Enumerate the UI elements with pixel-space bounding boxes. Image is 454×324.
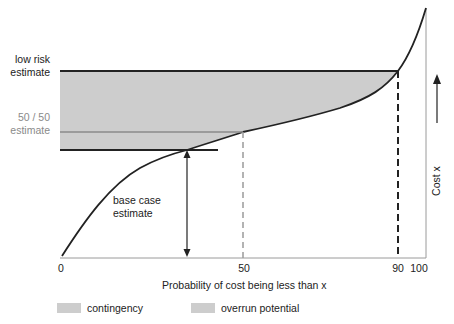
low-risk-label-line1: low risk	[0, 53, 50, 66]
low-risk-label: low risk estimate	[0, 53, 50, 79]
x-tick-90: 90	[392, 262, 404, 274]
fifty-label-line1: 50 / 50	[0, 111, 50, 124]
chart-canvas	[0, 0, 454, 324]
fifty-fifty-label: 50 / 50 estimate	[0, 111, 50, 137]
x-tick-100: 100	[410, 262, 428, 274]
shaded-contingency-area	[60, 71, 398, 150]
legend-label-contingency: contingency	[87, 302, 143, 315]
y-axis-label: Cost x	[430, 166, 442, 196]
fifty-label-line2: estimate	[0, 124, 50, 137]
base-label-line2: estimate	[113, 207, 161, 220]
legend-swatch-contingency	[57, 303, 81, 313]
low-risk-label-line2: estimate	[0, 66, 50, 79]
legend-label-overrun: overrun potential	[221, 302, 299, 315]
base-case-label: base case estimate	[113, 194, 161, 220]
arrow-head-down	[184, 249, 191, 257]
x-tick-0: 0	[58, 262, 64, 274]
base-label-line1: base case	[113, 194, 161, 207]
cost-arrow-head	[433, 74, 441, 84]
x-tick-50: 50	[238, 262, 250, 274]
x-axis-label: Probability of cost being less than x	[162, 279, 327, 292]
legend-swatch-overrun	[191, 303, 215, 313]
